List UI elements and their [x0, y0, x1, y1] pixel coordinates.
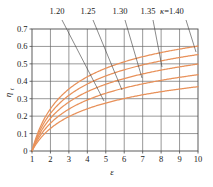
y-tick-label: 0.6 [17, 41, 28, 51]
y-tick-label: 0.2 [17, 111, 28, 121]
series-label: κ=1.40 [160, 6, 184, 16]
efficiency-vs-ratio-chart: 12345678910 00.10.20.30.40.50.60.7 1.201… [0, 0, 213, 187]
x-tick-label: 10 [194, 154, 203, 164]
x-axis-title-text: ε [110, 167, 114, 177]
series-label: 1.30 [113, 6, 128, 16]
x-tick-label: 1 [30, 154, 34, 164]
y-tick-label: 0 [23, 146, 27, 156]
y-tick-label: 0.7 [17, 24, 28, 34]
x-tick-label: 5 [104, 154, 108, 164]
x-axis-tick-labels: 12345678910 [30, 154, 202, 164]
x-tick-label: 8 [159, 154, 163, 164]
x-tick-label: 2 [48, 154, 52, 164]
x-tick-label: 9 [177, 154, 181, 164]
series-labels: 1.201.251.301.35κ=1.40 [50, 6, 184, 16]
y-axis-title-subscript: t [9, 88, 15, 90]
x-tick-label: 6 [122, 154, 126, 164]
series-label: 1.35 [141, 6, 156, 16]
x-tick-label: 7 [141, 154, 145, 164]
x-tick-label: 3 [67, 154, 71, 164]
y-axis-title: η t [3, 88, 15, 97]
y-tick-label: 0.3 [17, 94, 28, 104]
x-tick-label: 4 [85, 154, 90, 164]
series-label: 1.20 [50, 6, 65, 16]
y-axis-title-text: η [3, 92, 13, 97]
y-tick-label: 0.1 [17, 129, 28, 139]
series-label: 1.25 [81, 6, 96, 16]
chart-figure: 12345678910 00.10.20.30.40.50.60.7 1.201… [0, 0, 213, 187]
y-tick-label: 0.4 [17, 76, 28, 86]
y-axis-tick-labels: 00.10.20.30.40.50.60.7 [17, 24, 28, 156]
y-tick-label: 0.5 [17, 59, 28, 69]
